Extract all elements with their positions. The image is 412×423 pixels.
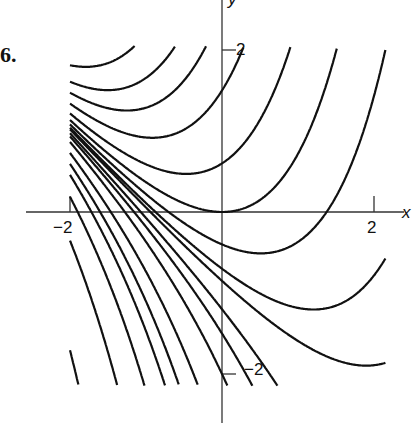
solution-curve [70, 46, 135, 67]
solution-curve [70, 128, 385, 310]
x-tick-label-2: 2 [367, 218, 376, 238]
y-tick-label-neg2: −2 [244, 360, 263, 380]
solution-curve [70, 48, 243, 138]
solution-curve [70, 49, 337, 212]
chart-figure: 6. −2 2 2 −2 x y [0, 0, 412, 423]
solution-curve [70, 241, 117, 385]
x-tick-label-neg2: −2 [53, 218, 72, 238]
solution-curves [70, 46, 385, 386]
y-axis-label: y [228, 0, 237, 10]
solution-curve [70, 137, 252, 386]
y-tick-label-2: 2 [236, 40, 245, 60]
x-axis-label: x [402, 203, 411, 223]
solution-curve [70, 350, 78, 384]
solution-curve [70, 46, 206, 110]
solution-curve [70, 164, 179, 384]
solution-curve [70, 47, 175, 90]
plot-area [0, 0, 412, 423]
